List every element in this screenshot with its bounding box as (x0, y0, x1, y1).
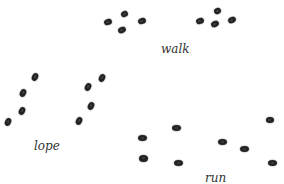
footprint-icon (268, 160, 277, 166)
footprint-icon (137, 17, 147, 25)
footprint-icon (213, 7, 222, 15)
footprint-icon (4, 117, 13, 127)
footprint-icon (84, 82, 93, 92)
lope-label: lope (34, 140, 60, 152)
footprint-icon (172, 125, 181, 131)
walk-label: walk (161, 43, 190, 55)
footprint-icon (87, 101, 96, 111)
run-label: run (205, 172, 226, 184)
gait-footprint-diagram: walk lope run (0, 0, 284, 184)
footprint-icon (139, 155, 148, 162)
footprint-icon (240, 146, 249, 152)
footprint-icon (218, 139, 227, 145)
footprint-icon (195, 17, 205, 25)
footprint-icon (18, 106, 27, 116)
footprint-icon (266, 117, 274, 123)
footprint-icon (227, 16, 237, 25)
footprint-icon (117, 26, 127, 35)
footprint-icon (210, 20, 220, 29)
footprint-icon (138, 135, 147, 141)
footprint-icon (103, 18, 113, 26)
footprint-icon (75, 116, 84, 126)
footprint-icon (174, 160, 183, 166)
footprint-icon (19, 88, 28, 98)
footprint-icon (120, 10, 129, 19)
footprint-icon (98, 73, 107, 83)
footprint-icon (31, 72, 40, 82)
